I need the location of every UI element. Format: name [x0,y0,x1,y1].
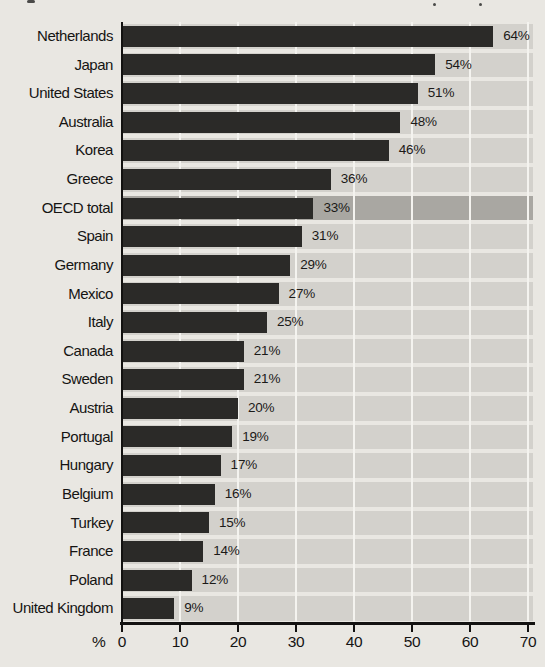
clipped-title-fragment [433,3,436,6]
category-label: Sweden [0,367,113,392]
bar [122,512,209,533]
axis-tick [179,625,181,632]
bar-value-label: 29% [300,256,326,274]
bar-value-label: 48% [410,113,436,131]
axis-tick [411,625,413,632]
bar-value-label: 27% [289,285,315,303]
bar-value-label: 14% [213,542,239,560]
category-label: Australia [0,110,113,135]
category-label: Italy [0,310,113,335]
bar [122,140,389,161]
gridline [527,22,529,623]
bar-value-label: 17% [231,456,257,474]
bar [122,198,313,219]
category-label: Greece [0,167,113,192]
bar [122,26,493,47]
axis-tick-label: 50 [395,633,429,651]
bar [122,426,232,447]
category-label: Portugal [0,425,113,450]
category-label: Belgium [0,482,113,507]
x-axis-line [120,622,535,625]
bar [122,255,290,276]
bar [122,598,174,619]
bar-chart-figure: 64%54%51%48%46%36%33%31%29%27%25%21%21%2… [0,0,545,667]
bar [122,54,435,75]
category-label: OECD total [0,196,113,221]
bar [122,226,302,247]
axis-tick-label: 70 [511,633,545,651]
category-label: France [0,539,113,564]
category-label: Korea [0,138,113,163]
category-label: Canada [0,339,113,364]
bar [122,312,267,333]
bar-value-label: 9% [184,599,203,617]
bar-value-label: 64% [503,27,529,45]
axis-tick-label: 30 [279,633,313,651]
percent-axis-label: % [84,633,114,651]
bar [122,341,244,362]
axis-tick-label: 40 [337,633,371,651]
y-axis-line [121,22,123,624]
bar-value-label: 31% [312,227,338,245]
bar [122,541,203,562]
category-label: Japan [0,53,113,78]
category-label: United States [0,81,113,106]
bar-value-label: 33% [323,199,349,217]
bar [122,112,400,133]
bar-value-label: 12% [202,571,228,589]
bar-value-label: 16% [225,485,251,503]
bar-value-label: 19% [242,428,268,446]
clipped-title-fragment [479,3,482,6]
category-label: Netherlands [0,24,113,49]
bar-value-label: 54% [445,56,471,74]
category-label: Mexico [0,282,113,307]
bar [122,83,418,104]
axis-tick [353,625,355,632]
axis-tick-label: 10 [163,633,197,651]
bar-value-label: 51% [428,84,454,102]
category-label: Austria [0,396,113,421]
category-label: Germany [0,253,113,278]
bar [122,398,238,419]
axis-tick-label: 20 [221,633,255,651]
category-label: Turkey [0,511,113,536]
axis-tick [469,625,471,632]
bar-value-label: 25% [277,313,303,331]
bar-value-label: 46% [399,141,425,159]
axis-tick [295,625,297,632]
axis-tick [121,625,123,632]
bar-value-label: 15% [219,514,245,532]
bar [122,455,221,476]
bar-value-label: 21% [254,370,280,388]
axis-tick [527,625,529,632]
category-label: Hungary [0,453,113,478]
category-label: United Kingdom [0,596,113,621]
plot-area: 64%54%51%48%46%36%33%31%29%27%25%21%21%2… [122,22,533,623]
bar-value-label: 36% [341,170,367,188]
bar-value-label: 20% [248,399,274,417]
bar [122,169,331,190]
bar [122,484,215,505]
bar [122,570,192,591]
bar [122,369,244,390]
category-label: Poland [0,568,113,593]
gridline [469,22,471,623]
category-label: Spain [0,224,113,249]
axis-tick [237,625,239,632]
bar-value-label: 21% [254,342,280,360]
axis-tick-label: 60 [453,633,487,651]
clipped-title-fragment [27,0,35,3]
bar [122,283,279,304]
